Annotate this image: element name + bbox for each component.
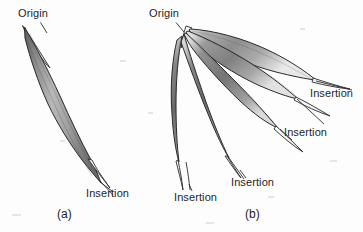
panel-a-insertion-tendon bbox=[88, 159, 110, 188]
panel-b-caption: (b) bbox=[245, 207, 260, 221]
panel-a-origin-leader bbox=[41, 23, 48, 34]
panel-b-insertion-label-lower-left: Insertion bbox=[174, 191, 217, 204]
panel-a-caption: (a) bbox=[57, 207, 72, 221]
muscle-arrangement-figure: Origin Insertion (a) Origin Insertion In… bbox=[0, 0, 363, 232]
panel-b-muscle bbox=[171, 23, 352, 192]
panel-b-insertion-label-lower-middle: Insertion bbox=[231, 176, 274, 189]
panel-b-insertion-label-middle-right: Insertion bbox=[284, 126, 327, 139]
panel-b-origin-leader bbox=[176, 23, 184, 33]
panel-a-insertion-label: Insertion bbox=[86, 187, 129, 200]
panel-b-tendon-5 bbox=[176, 160, 183, 190]
panel-b-tendon-4 bbox=[225, 156, 241, 178]
panel-b-origin-label: Origin bbox=[149, 7, 179, 20]
panel-b-insertion-label-upper-right: Insertion bbox=[310, 87, 353, 100]
panel-b-belly-5 bbox=[171, 36, 182, 162]
panel-a-origin-label: Origin bbox=[18, 7, 48, 20]
panel-a-muscle bbox=[23, 23, 114, 196]
